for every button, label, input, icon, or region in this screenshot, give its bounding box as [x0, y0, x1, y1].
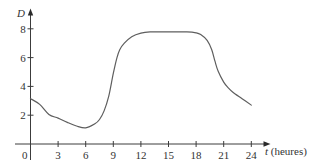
y-tick-label: 6 [20, 52, 26, 64]
x-axis-label-unit: (heures) [268, 145, 307, 158]
x-tick-label: 21 [218, 149, 229, 161]
y-axis-ticks: 2468 [20, 23, 33, 121]
y-axis-arrow-icon [28, 9, 33, 16]
x-tick-label: 15 [163, 149, 175, 161]
x-tick-label: 3 [55, 149, 61, 161]
line-chart: 3691215182124 2468 D 0 t (heures) [0, 0, 322, 168]
x-tick-label: 9 [111, 149, 117, 161]
axes [15, 9, 271, 161]
x-axis-label: t (heures) [265, 145, 307, 158]
x-tick-label: 24 [246, 149, 258, 161]
y-tick-label: 2 [20, 109, 26, 121]
x-tick-label: 18 [191, 149, 203, 161]
data-curve-d-of-t [31, 32, 252, 128]
y-axis-label: D [16, 7, 25, 19]
x-tick-label: 6 [83, 149, 89, 161]
origin-label: 0 [22, 149, 28, 161]
x-tick-label: 12 [135, 149, 146, 161]
y-tick-label: 4 [20, 80, 26, 92]
y-tick-label: 8 [20, 23, 26, 35]
